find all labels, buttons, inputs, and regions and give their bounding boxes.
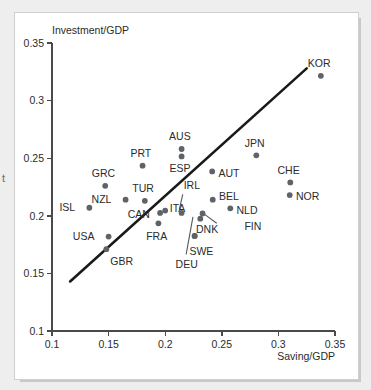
point-label: FIN (244, 220, 261, 232)
point-label: DEU (176, 258, 198, 270)
data-point-isl[interactable]: ISL (59, 201, 92, 213)
x-tick-label: 0.2 (158, 338, 173, 350)
data-point-che[interactable]: CHE (278, 164, 300, 185)
point-label: KOR (308, 57, 331, 69)
x-axis-ticks: 0.10.150.20.250.30.35 (45, 331, 346, 350)
data-point-can[interactable]: CAN (128, 208, 163, 220)
data-point-aus[interactable]: AUS (169, 130, 191, 151)
scatter-plot: 0.10.150.20.250.30.35 0.10.150.20.250.30… (15, 13, 358, 379)
point-marker[interactable] (200, 211, 206, 217)
point-label: TUR (132, 182, 154, 194)
point-marker[interactable] (209, 169, 215, 175)
data-point-usa[interactable]: USA (73, 230, 112, 242)
point-label: FRA (146, 230, 167, 242)
point-marker[interactable] (106, 234, 112, 240)
point-label: JPN (245, 137, 265, 149)
point-marker[interactable] (287, 179, 293, 185)
point-label: PRT (130, 147, 151, 159)
point-marker[interactable] (140, 163, 146, 169)
point-marker[interactable] (179, 146, 185, 152)
point-label: DNK (196, 223, 218, 235)
point-label: CHE (278, 164, 300, 176)
data-point-esp[interactable]: ESP (169, 154, 190, 175)
data-point-prt[interactable]: PRT (130, 147, 151, 168)
point-marker[interactable] (123, 197, 129, 203)
data-point-nzl[interactable]: NZL (92, 193, 129, 205)
point-marker[interactable] (287, 192, 293, 198)
y-axis-title: Investment/GDP (52, 24, 129, 36)
x-axis-title: Saving/GDP (277, 350, 335, 362)
point-label: ESP (169, 162, 190, 174)
point-marker[interactable] (179, 154, 185, 160)
point-label: NZL (92, 193, 112, 205)
data-point-swe[interactable]: SWE (189, 233, 213, 256)
data-points: ISLNZLGRCUSAGBRTURCANPRTFRAITAAUSESPIRLD… (59, 57, 330, 271)
point-marker[interactable] (162, 208, 168, 214)
point-label: AUS (169, 130, 191, 142)
data-point-gbr[interactable]: GBR (103, 246, 133, 267)
point-marker[interactable] (86, 205, 92, 211)
y-tick-label: 0.1 (29, 325, 44, 337)
y-tick-label: 0.3 (29, 94, 44, 106)
data-point-nor[interactable]: NOR (287, 190, 320, 202)
y-tick-label: 0.2 (29, 210, 44, 222)
y-tick-label: 0.25 (24, 152, 45, 164)
point-label: NOR (296, 190, 320, 202)
point-marker[interactable] (157, 210, 163, 216)
point-marker[interactable] (197, 216, 203, 222)
point-label: BEL (219, 190, 239, 202)
point-label: GRC (92, 167, 116, 179)
y-tick-label: 0.15 (24, 267, 45, 279)
data-point-bel[interactable]: BEL (210, 190, 239, 202)
x-tick-label: 0.1 (45, 338, 60, 350)
point-label: SWE (189, 245, 213, 257)
fin-leader (204, 214, 216, 223)
point-label: ISL (59, 201, 75, 213)
point-label: CAN (128, 208, 150, 220)
data-point-nld[interactable]: NLD (227, 204, 258, 216)
x-tick-label: 0.3 (271, 338, 286, 350)
point-marker[interactable] (253, 152, 259, 158)
point-marker[interactable] (103, 246, 109, 252)
data-point-fra[interactable]: FRA (146, 220, 167, 241)
point-marker[interactable] (142, 198, 148, 204)
x-tick-label: 0.15 (98, 338, 119, 350)
data-point-kor[interactable]: KOR (308, 57, 331, 79)
point-marker[interactable] (210, 197, 216, 203)
x-tick-label: 0.25 (212, 338, 233, 350)
point-marker[interactable] (179, 210, 185, 216)
point-label: NLD (237, 204, 258, 216)
point-marker[interactable] (318, 73, 324, 79)
x-tick-label: 0.35 (325, 338, 346, 350)
figure-page: t 0.10.150.20.250.30.35 0.10.150.20.250.… (0, 0, 371, 390)
data-point-grc[interactable]: GRC (92, 167, 116, 188)
cropped-text-fragment: t (2, 172, 5, 184)
data-point-aut[interactable]: AUT (209, 167, 240, 179)
point-marker[interactable] (156, 220, 162, 226)
scatter-chart-svg: 0.10.150.20.250.30.35 0.10.150.20.250.30… (15, 13, 358, 379)
data-point-tur[interactable]: TUR (132, 182, 154, 203)
data-point-jpn[interactable]: JPN (245, 137, 265, 158)
point-label: AUT (218, 167, 240, 179)
point-label: IRL (184, 179, 201, 191)
point-label: GBR (110, 255, 133, 267)
data-point-dnk[interactable]: DNK (196, 216, 218, 235)
point-marker[interactable] (227, 205, 233, 211)
y-tick-label: 0.35 (24, 37, 45, 49)
point-marker[interactable] (102, 183, 108, 189)
y-axis-ticks: 0.10.150.20.250.30.35 (24, 37, 52, 337)
figure-card: 0.10.150.20.250.30.35 0.10.150.20.250.30… (14, 12, 359, 380)
point-label: USA (73, 230, 95, 242)
